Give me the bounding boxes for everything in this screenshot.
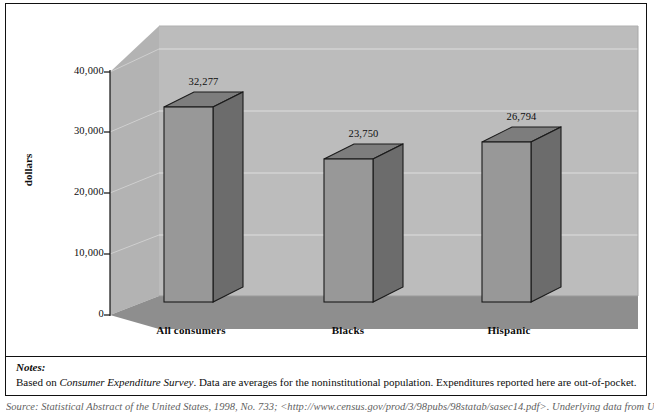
chart-figure: 40,000 30,000 20,000 10,000 0 dollars 32… xyxy=(6,4,646,356)
y-tick-40000: 40,000 xyxy=(56,65,104,76)
bar-front-face xyxy=(324,159,373,302)
notes-text: Based on Consumer Expenditure Survey. Da… xyxy=(16,376,638,389)
figure-frame: 40,000 30,000 20,000 10,000 0 dollars 32… xyxy=(5,3,647,396)
bar-side-face xyxy=(213,92,243,302)
value-label-blacks: 23,750 xyxy=(316,128,411,139)
bar-side-face xyxy=(373,144,403,302)
value-label-all-consumers: 32,277 xyxy=(156,76,251,87)
y-axis-title: dollars xyxy=(22,130,34,210)
y-tick-0: 0 xyxy=(56,308,104,319)
source-line: Source: Statistical Abstract of the Unit… xyxy=(6,401,654,413)
bar-blacks[interactable] xyxy=(324,144,403,302)
category-label-all-consumers: All consumers xyxy=(116,324,266,336)
notes-text-post: . Data are averages for the noninstituti… xyxy=(193,376,636,388)
notes-divider xyxy=(6,356,646,357)
figure-page: 40,000 30,000 20,000 10,000 0 dollars 32… xyxy=(0,0,654,416)
notes-heading: Notes: xyxy=(16,361,638,374)
bar-all-consumers[interactable] xyxy=(164,92,243,302)
category-label-blacks: Blacks xyxy=(288,324,408,336)
bar-front-face xyxy=(164,107,213,302)
notes-block: Notes: Based on Consumer Expenditure Sur… xyxy=(16,361,638,389)
bar-hispanic[interactable] xyxy=(482,127,561,302)
y-axis-ticks xyxy=(104,72,110,315)
chart-left-wall xyxy=(110,26,159,315)
category-label-hispanic: Hispanic xyxy=(444,324,574,336)
value-label-hispanic: 26,794 xyxy=(474,111,569,122)
bar-side-face xyxy=(531,127,561,302)
notes-text-pre: Based on xyxy=(16,376,59,388)
y-tick-20000: 20,000 xyxy=(56,186,104,197)
y-axis-tick-labels: 40,000 30,000 20,000 10,000 0 xyxy=(52,4,104,356)
y-tick-30000: 30,000 xyxy=(56,125,104,136)
y-tick-10000: 10,000 xyxy=(56,247,104,258)
notes-survey-name: Consumer Expenditure Survey xyxy=(59,376,193,388)
bar-front-face xyxy=(482,142,531,302)
